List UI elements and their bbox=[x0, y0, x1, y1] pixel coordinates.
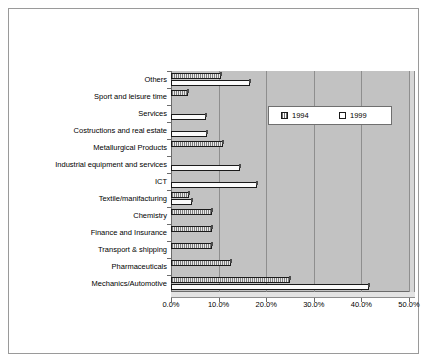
gridline-30.0% bbox=[314, 71, 315, 292]
category-label: Pharmaceuticals bbox=[112, 262, 167, 271]
category-label: Metallurgical Products bbox=[93, 143, 167, 152]
category-tick bbox=[167, 224, 171, 225]
category-tick bbox=[167, 173, 171, 174]
bar-1999 bbox=[171, 199, 192, 205]
category-label: Textile/manifacturing bbox=[99, 194, 167, 203]
category-label: Others bbox=[144, 75, 167, 84]
bar-1999 bbox=[171, 284, 369, 290]
bar-1994 bbox=[171, 209, 212, 215]
value-axis-tick bbox=[219, 298, 220, 302]
bar-1994 bbox=[171, 192, 189, 198]
category-tick bbox=[167, 139, 171, 140]
category-tick bbox=[167, 122, 171, 123]
bar-1999 bbox=[171, 182, 257, 188]
category-label: ICT bbox=[155, 177, 167, 186]
category-tick bbox=[167, 156, 171, 157]
bar-1994 bbox=[171, 90, 188, 96]
category-tick bbox=[167, 88, 171, 89]
category-label: Costructions and real estate bbox=[74, 126, 167, 135]
category-label: Chemistry bbox=[133, 211, 167, 220]
category-axis-labels: Mechanics/AutomotivePharmaceuticalsTrans… bbox=[9, 71, 167, 292]
category-tick bbox=[167, 71, 171, 72]
category-tick bbox=[167, 258, 171, 259]
value-axis-tick bbox=[266, 298, 267, 302]
category-label: Services bbox=[138, 109, 167, 118]
value-axis-tick bbox=[409, 298, 410, 302]
bar-1994 bbox=[171, 260, 231, 266]
bar-1994 bbox=[171, 277, 290, 283]
bar-1999 bbox=[171, 131, 207, 137]
category-label: Sport and leisure time bbox=[94, 92, 167, 101]
bar-1994 bbox=[171, 243, 212, 249]
category-label: Transport & shipping bbox=[98, 245, 167, 254]
bar-1999 bbox=[171, 80, 250, 86]
bar-1994 bbox=[171, 73, 221, 79]
legend-label: 1999 bbox=[350, 111, 367, 120]
chart-legend: 19941999 bbox=[268, 106, 392, 125]
hatched-swatch bbox=[281, 112, 288, 119]
gridline-50.0% bbox=[409, 71, 410, 292]
plot-floor-shade bbox=[171, 292, 415, 298]
bar-1994 bbox=[171, 141, 223, 147]
chart-frame: Mechanics/AutomotivePharmaceuticalsTrans… bbox=[8, 8, 419, 354]
category-label: Mechanics/Automotive bbox=[92, 279, 167, 288]
legend-entry-1994: 1994 bbox=[281, 111, 309, 120]
legend-entry-1999: 1999 bbox=[339, 111, 367, 120]
value-axis-tick bbox=[361, 298, 362, 302]
gridline-20.0% bbox=[266, 71, 267, 292]
legend-label: 1994 bbox=[292, 111, 309, 120]
category-tick bbox=[167, 241, 171, 242]
category-label: Finance and Insurance bbox=[91, 228, 167, 237]
category-tick bbox=[167, 275, 171, 276]
value-axis-tick bbox=[314, 298, 315, 302]
bar-1999 bbox=[171, 114, 206, 120]
gridline-40.0% bbox=[361, 71, 362, 292]
category-tick bbox=[167, 105, 171, 106]
bar-1994 bbox=[171, 226, 212, 232]
category-label: Industrial equipment and services bbox=[55, 160, 167, 169]
bar-1999 bbox=[171, 165, 240, 171]
empty-swatch bbox=[339, 112, 346, 119]
category-tick bbox=[167, 207, 171, 208]
category-tick bbox=[167, 190, 171, 191]
value-axis-tick bbox=[171, 298, 172, 302]
